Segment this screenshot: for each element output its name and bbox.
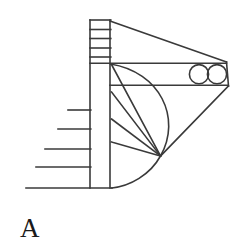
figure-caption-label: A <box>20 212 80 244</box>
figure-container: A <box>0 0 247 251</box>
